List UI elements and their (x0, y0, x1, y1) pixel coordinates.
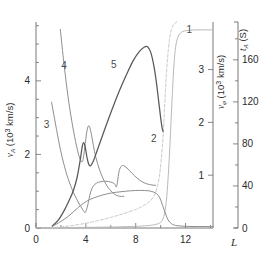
y-right-outer-tick-label: 0 (242, 223, 248, 234)
curve-label-5: 5 (111, 59, 117, 70)
y-right-outer-tick-label: 160 (242, 54, 259, 65)
figure-container: 0481202412304080120160 12345 νA (103 km/… (0, 0, 269, 261)
y-right-inner-tick-label: 2 (198, 117, 204, 128)
y-left-tick-label: 2 (24, 149, 30, 160)
curve-6 (52, 190, 213, 226)
y-right-inner-tick-label: 1 (198, 170, 204, 181)
curve-label-3: 3 (44, 119, 50, 130)
x-tick-label: 12 (180, 234, 192, 245)
x-tick-label: 4 (83, 234, 89, 245)
y-right-inner-tick-label: 3 (198, 64, 204, 75)
svg-text:νφ (103 km/s): νφ (103 km/s) (215, 55, 228, 109)
y-left-tick-label: 4 (24, 75, 30, 86)
x-tick-label: 8 (133, 234, 139, 245)
curve-4 (60, 29, 124, 196)
curve-label-1: 1 (187, 24, 193, 35)
curve-label-2: 2 (151, 133, 157, 144)
curve-3 (52, 102, 156, 212)
right-outer-axis-title: tA (S) (237, 29, 250, 51)
y-right-outer-tick-label: 80 (242, 138, 254, 149)
chart-canvas: 0481202412304080120160 12345 νA (103 km/… (0, 0, 269, 261)
x-tick-label: 0 (33, 234, 39, 245)
svg-text:νA (103 km/s): νA (103 km/s) (4, 103, 17, 158)
right-inner-axis-title: νφ (103 km/s) (215, 55, 228, 109)
curve-label-4: 4 (61, 60, 67, 71)
curves-group (36, 22, 213, 228)
svg-text:tA (S): tA (S) (237, 29, 250, 51)
y-right-outer-tick-label: 120 (242, 96, 259, 107)
curve-2 (51, 22, 177, 228)
y-left-tick-label: 0 (24, 223, 30, 234)
x-axis-title: L (230, 236, 237, 248)
y-right-outer-tick-label: 40 (242, 180, 254, 191)
curve-5 (52, 46, 163, 226)
left-axis-title: νA (103 km/s) (4, 103, 17, 158)
